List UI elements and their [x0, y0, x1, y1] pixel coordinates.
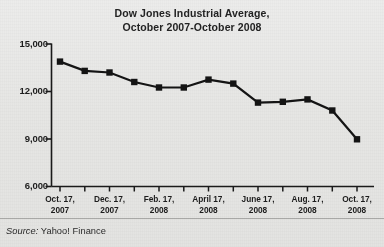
data-point-marker: [329, 107, 335, 113]
y-axis-tick-label: 15,000: [2, 38, 48, 49]
data-point-marker: [82, 68, 88, 74]
source-value: Yahoo! Finance: [38, 226, 106, 236]
data-point-marker: [255, 99, 261, 105]
x-axis-tick-label: Oct. 17,2008: [329, 194, 384, 216]
data-point-marker: [354, 136, 360, 142]
chart-figure: Dow Jones Industrial Average, October 20…: [0, 0, 384, 247]
data-point-marker: [131, 79, 137, 85]
data-point-marker: [156, 84, 162, 90]
x-axis-tick-label-month: Oct. 17,: [342, 194, 372, 204]
x-axis-tick-label-year: 2008: [230, 205, 286, 216]
source-note: Source: Yahoo! Finance: [6, 226, 106, 236]
x-axis-tick-label-month: Oct. 17,: [45, 194, 75, 204]
data-point-marker: [205, 76, 211, 82]
x-axis-tick-label-month: Dec. 17,: [94, 194, 125, 204]
data-point-marker: [304, 96, 310, 102]
y-axis-tick-label: 9,000: [2, 133, 48, 144]
y-axis-tick-label: 12,000: [2, 85, 48, 96]
data-series-line: [60, 62, 357, 140]
x-axis-tick-label-year: 2008: [329, 205, 384, 216]
x-axis-tick-label-year: 2008: [181, 205, 237, 216]
y-axis-tick-label: 6,000: [2, 180, 48, 191]
x-axis-tick-label-year: 2007: [32, 205, 88, 216]
x-axis-tick-label: June 17,2008: [230, 194, 286, 216]
x-axis-tick-label-month: April 17,: [192, 194, 224, 204]
x-axis-tick-label-year: 2008: [280, 205, 336, 216]
x-axis-tick-label-month: Aug. 17,: [292, 194, 324, 204]
x-axis-tick-label-month: June 17,: [242, 194, 275, 204]
data-point-marker: [230, 80, 236, 86]
data-point-marker: [57, 58, 63, 64]
source-label: Source:: [6, 226, 38, 236]
data-point-marker: [181, 84, 187, 90]
x-axis-tick-label-month: Feb. 17,: [144, 194, 175, 204]
x-axis-tick-label: Aug. 17,2008: [280, 194, 336, 216]
y-axis-ticks: [46, 44, 52, 187]
x-axis-tick-label: Feb. 17,2008: [131, 194, 187, 216]
x-axis-tick-label-year: 2008: [131, 205, 187, 216]
x-axis-tick-label-year: 2007: [82, 205, 138, 216]
x-axis-tick-label: April 17,2008: [181, 194, 237, 216]
x-axis-tick-label: Oct. 17,2007: [32, 194, 88, 216]
footer-divider: [0, 218, 384, 219]
data-point-marker: [106, 69, 112, 75]
axes: [52, 44, 375, 187]
x-axis-tick-label: Dec. 17,2007: [82, 194, 138, 216]
data-point-marker: [280, 99, 286, 105]
